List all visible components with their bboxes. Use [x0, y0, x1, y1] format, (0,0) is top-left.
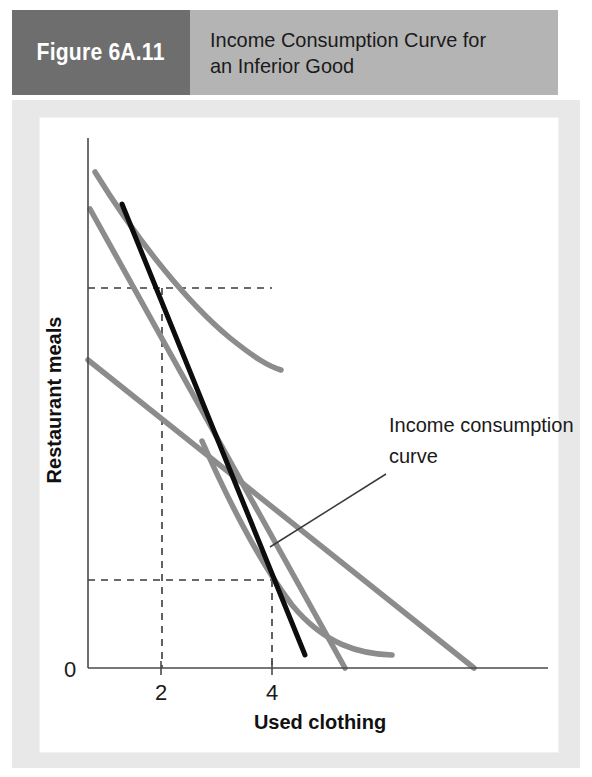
page-root: Figure 6A.11 Income Consumption Curve fo… [0, 0, 592, 777]
figure-number-label: Figure 6A.11 [37, 39, 165, 66]
figure-title-container: Income Consumption Curve for an Inferior… [190, 10, 558, 95]
figure-card [40, 118, 558, 752]
figure-number-tab: Figure 6A.11 [12, 10, 190, 95]
figure-header-band: Figure 6A.11 Income Consumption Curve fo… [12, 10, 558, 95]
figure-title: Income Consumption Curve for an Inferior… [210, 27, 486, 79]
